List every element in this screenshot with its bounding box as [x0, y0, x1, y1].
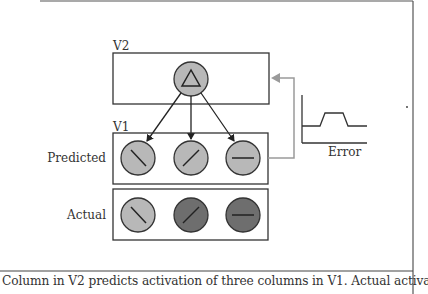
predicted-label: Predicted [47, 151, 106, 165]
figure-caption: Column in V2 predicts activation of thre… [2, 274, 422, 288]
predicted-column-2 [174, 141, 208, 175]
prediction-arrow-3 [201, 93, 234, 141]
error-feedback-arrow [268, 78, 294, 158]
error-graph: Error [302, 95, 367, 159]
actual-label: Actual [66, 208, 106, 222]
diagram-canvas: V2 V1 Predicted Actual [0, 0, 428, 294]
actual-column-2 [174, 198, 208, 232]
actual-column-3 [226, 198, 260, 232]
error-signal-waveform [302, 113, 367, 126]
speck [406, 106, 408, 108]
error-label: Error [328, 145, 361, 159]
v1-label: V1 [112, 120, 129, 134]
v2-column [174, 62, 208, 96]
v2-label: V2 [112, 39, 129, 53]
prediction-arrow-1 [147, 93, 181, 141]
actual-column-1 [121, 198, 155, 232]
predicted-column-1 [121, 141, 155, 175]
predicted-column-3 [226, 141, 260, 175]
